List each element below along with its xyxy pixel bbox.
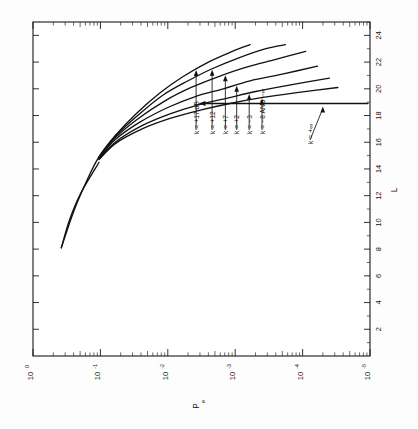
- l-tick-label: 16: [374, 138, 383, 146]
- l-tick-label: 6: [374, 274, 383, 278]
- curve-annotation-label: k = +17 dB: [193, 101, 200, 134]
- pe-axis-name-subscript: e: [200, 400, 206, 403]
- pe-tick-label-group: 10-3: [226, 364, 237, 380]
- pe-tick-exponent: -3: [226, 364, 232, 369]
- l-tick-label: 4: [374, 300, 383, 304]
- axis-name-l: L: [390, 187, 399, 192]
- curve-annotation-label: k = −3: [246, 115, 253, 134]
- curve-annotation-label: k = +12: [209, 111, 216, 134]
- figure-page: 10010-110-210-310-410-5 2468101214161820…: [0, 0, 418, 429]
- pe-tick-label-group: 100: [24, 365, 35, 380]
- pe-tick-mantissa: 10: [228, 372, 237, 380]
- pe-tick-mantissa: 10: [26, 372, 35, 380]
- pe-tick-label-group: 10-4: [294, 364, 305, 380]
- curve-annotation-label: k = +∞: [307, 124, 314, 144]
- l-axis-tick-labels: 24681012141618202224: [374, 31, 383, 331]
- l-tick-label: 12: [374, 192, 383, 200]
- pe-tick-mantissa: 10: [363, 372, 372, 380]
- curve-annotation-label: k = +7: [222, 115, 229, 134]
- curve-annotation-label: k = +2: [233, 115, 240, 134]
- l-tick-label: 14: [374, 165, 383, 173]
- l-tick-label: 8: [374, 247, 383, 251]
- l-axis-name: L: [390, 187, 399, 192]
- curve-annotation-label: k = −8 AND −∞: [259, 88, 266, 134]
- pe-tick-exponent: -2: [159, 364, 165, 369]
- pe-tick-label-group: 10-5: [361, 364, 372, 380]
- pe-tick-label-group: 10-2: [159, 364, 170, 380]
- pe-tick-exponent: -1: [92, 364, 98, 369]
- l-tick-label: 2: [374, 327, 383, 331]
- pe-axis-tick-labels: 10010-110-210-310-410-5: [24, 364, 372, 380]
- pe-tick-mantissa: 10: [93, 372, 102, 380]
- l-tick-label: 20: [374, 85, 383, 93]
- pe-tick-mantissa: 10: [161, 372, 170, 380]
- l-tick-label: 18: [374, 111, 383, 119]
- l-tick-label: 22: [374, 58, 383, 66]
- pe-tick-exponent: -5: [361, 364, 367, 369]
- pe-tick-mantissa: 10: [296, 372, 305, 380]
- pe-tick-exponent: -4: [294, 364, 300, 369]
- pe-tick-exponent: 0: [24, 365, 30, 368]
- axis-name-pe: P e: [192, 400, 206, 409]
- l-tick-label: 24: [374, 31, 383, 39]
- chart-figure: 10010-110-210-310-410-5 2468101214161820…: [0, 0, 418, 429]
- l-tick-label: 10: [374, 218, 383, 226]
- pe-tick-label-group: 10-1: [92, 364, 103, 380]
